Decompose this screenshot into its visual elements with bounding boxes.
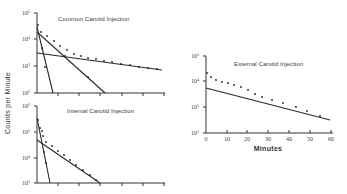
svg-text:50: 50 xyxy=(307,136,313,142)
panel-common-carotid: Common Carotid Injection 105 104 103 102 xyxy=(22,9,165,97)
svg-text:60: 60 xyxy=(328,136,334,142)
svg-text:20: 20 xyxy=(244,136,250,142)
y-tick-labels: 105 104 103 102 xyxy=(191,52,199,137)
svg-text:104: 104 xyxy=(191,77,199,85)
x-axis-label: Minutes xyxy=(254,145,283,152)
svg-text:102: 102 xyxy=(191,129,199,137)
y-tick-labels: 106 105 104 103 xyxy=(22,102,30,187)
observed-points xyxy=(37,119,97,181)
svg-text:0: 0 xyxy=(205,136,208,142)
svg-text:105: 105 xyxy=(22,9,30,17)
svg-text:105: 105 xyxy=(22,128,30,136)
svg-text:103: 103 xyxy=(191,103,199,111)
svg-text:102: 102 xyxy=(22,89,30,97)
svg-text:103: 103 xyxy=(22,179,30,187)
svg-text:104: 104 xyxy=(22,35,30,43)
svg-text:40: 40 xyxy=(286,136,292,142)
panel-title: Common Carotid Injection xyxy=(58,15,130,22)
svg-text:105: 105 xyxy=(191,52,199,60)
x-tick-labels: 0 10 20 30 40 50 60 xyxy=(205,136,335,142)
fast-component-line xyxy=(37,118,50,183)
panel-title: Internal Carotid Injection xyxy=(67,107,135,114)
slow-component-line xyxy=(206,88,330,120)
svg-text:30: 30 xyxy=(265,136,271,142)
svg-text:104: 104 xyxy=(22,154,30,162)
intermediate-component-line xyxy=(37,32,105,93)
panel-internal-carotid: Internal Carotid Injection 106 105 104 1… xyxy=(22,102,165,187)
svg-text:106: 106 xyxy=(22,102,30,110)
panel-title: External Carotid Injection xyxy=(234,60,304,67)
observed-points xyxy=(206,72,321,117)
panel-external-carotid: External Carotid Injection 105 104 103 1… xyxy=(191,52,334,153)
slow-component-line xyxy=(37,140,100,183)
svg-text:103: 103 xyxy=(22,62,30,70)
slow-component-line xyxy=(37,53,162,70)
svg-text:10: 10 xyxy=(224,136,230,142)
y-tick-labels: 105 104 103 102 xyxy=(22,9,30,97)
y-axis-label: Counts per Minute xyxy=(4,72,12,134)
fast-component-line xyxy=(37,27,53,93)
observed-points xyxy=(37,24,158,78)
figure: Counts per Minute Common Carotid Injecti… xyxy=(0,0,347,194)
